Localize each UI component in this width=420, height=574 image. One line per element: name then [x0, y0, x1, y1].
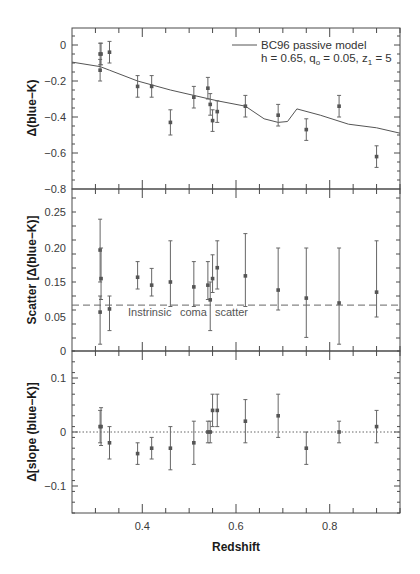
data-point: [243, 234, 247, 307]
y-tick-label: 0: [60, 345, 66, 357]
data-point: [150, 76, 154, 98]
data-point: [304, 432, 308, 464]
data-point: [107, 296, 111, 331]
y-tick-label: −0.2: [44, 75, 66, 87]
y-tick-label: −0.6: [44, 147, 66, 159]
data-point: [304, 248, 308, 337]
data-point: [304, 119, 308, 141]
y-tick-label: −0.1: [44, 480, 66, 492]
data-point: [211, 255, 215, 293]
data-point: [107, 427, 111, 459]
data-point: [150, 437, 154, 459]
y-tick-label: 0.25: [45, 206, 66, 218]
data-point: [168, 110, 172, 135]
y-tick-label: 0.20: [45, 242, 66, 254]
data-point: [243, 95, 247, 117]
data-point: [208, 94, 212, 116]
annotation-word-instrinsic: Instrinsic: [128, 306, 172, 318]
data-point: [192, 421, 196, 464]
y-tick-label: 0: [60, 39, 66, 51]
y-tick-label: 0: [60, 426, 66, 438]
model-curve: [72, 62, 400, 133]
data-point: [211, 394, 215, 426]
y-tick-label: 0.1: [51, 372, 66, 384]
data-point: [276, 394, 280, 437]
y-axis-title-scatter: Scatter [Δ(blue−K)]: [25, 216, 39, 325]
data-point: [211, 110, 215, 132]
intrinsic-coma-scatter-label: Instrinsic coma scatter: [128, 306, 248, 318]
data-point: [215, 241, 219, 289]
data-point: [375, 146, 379, 168]
x-axis-title: Redshift: [212, 540, 260, 554]
data-point: [337, 95, 341, 117]
data-point: [136, 76, 140, 98]
y-tick-label: 0.15: [45, 276, 66, 288]
legend-label-model: BC96 passive model: [261, 39, 366, 51]
y-tick-label: −0.4: [44, 111, 66, 123]
data-point: [215, 101, 219, 123]
legend-label-params: h = 0.65, qo = 0.05, z1 = 5: [261, 52, 392, 67]
data-point: [337, 248, 341, 344]
data-point: [215, 394, 219, 426]
data-point: [206, 262, 210, 300]
data-point: [107, 41, 111, 63]
y-axis-title-slope: Δ[slope (blue−K)]: [25, 382, 39, 482]
panel-slope: 0.10−0.1: [44, 351, 400, 513]
data-point: [375, 410, 379, 442]
data-point: [206, 77, 210, 99]
data-point: [150, 268, 154, 296]
data-point: [192, 86, 196, 108]
x-tick-label: 0.8: [322, 520, 337, 532]
data-point: [208, 282, 212, 331]
x-tick-label: 0.6: [228, 520, 243, 532]
x-tick-label: 0.4: [135, 520, 150, 532]
data-point: [276, 248, 280, 310]
data-point: [168, 427, 172, 470]
legend: BC96 passive model h = 0.65, qo = 0.05, …: [232, 39, 392, 67]
annotation-word-scatter: scatter: [215, 306, 248, 318]
panel-scatter: 0.250.200.150.050: [45, 189, 400, 357]
panel-frame: [72, 189, 400, 351]
y-axis-title-color: Δ(blue−K): [25, 80, 39, 137]
data-point: [136, 262, 140, 289]
data-point: [136, 443, 140, 465]
data-point: [243, 400, 247, 443]
y-tick-label: −0.8: [44, 183, 66, 195]
data-point: [208, 421, 212, 443]
annotation-word-coma: coma: [180, 306, 208, 318]
x-tick-labels: 0.40.60.8: [135, 520, 338, 532]
data-point: [98, 296, 102, 344]
data-point: [337, 421, 341, 443]
data-point: [192, 262, 196, 307]
chart-canvas: 0−0.2−0.4−0.6−0.8 0.250.200.150.050 0.10…: [0, 0, 420, 574]
figure: 0−0.2−0.4−0.6−0.8 0.250.200.150.050 0.10…: [0, 0, 420, 574]
data-point: [168, 241, 172, 307]
y-tick-label: 0.05: [45, 311, 66, 323]
